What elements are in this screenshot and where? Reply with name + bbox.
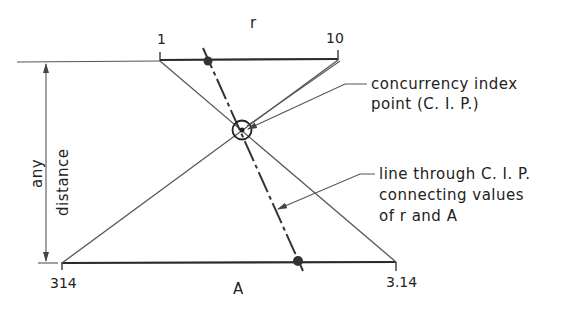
bottom-scale-end-label: 3.14 [386, 274, 417, 290]
callout-cip: concurrency index point (C. I. P.) [247, 61, 518, 129]
callout-cip-line2: point (C. I. P.) [371, 95, 479, 113]
dimension-label-line2: distance [54, 148, 72, 216]
a-value-point [293, 256, 303, 266]
top-scale-name: r [250, 14, 257, 32]
bottom-scale-start-label: 314 [50, 275, 77, 291]
bottom-scale-name: A [233, 280, 244, 298]
bottom-scale-a: 314 3.14 A [50, 262, 417, 298]
callout-through-line2: connecting values [379, 186, 524, 204]
callout-through-line: line through C. I. P. connecting values … [278, 165, 531, 225]
construction-lines [62, 60, 396, 263]
top-scale-end-label: 10 [326, 30, 344, 46]
r-value-point [204, 57, 213, 66]
cip-connecting-line [203, 48, 303, 271]
top-scale-start-label: 1 [157, 31, 166, 47]
callout-through-line3: of r and A [379, 207, 458, 225]
callout-cip-line1: concurrency index [371, 75, 518, 93]
callout-through-line1: line through C. I. P. [379, 165, 531, 183]
dimension-label-line1: any [28, 159, 46, 188]
top-scale-r: 1 10 r [157, 14, 344, 61]
dimension-any-distance: any distance [17, 61, 160, 263]
nomograph-diagram: 1 10 r 314 3.14 A any distance co [0, 0, 585, 311]
